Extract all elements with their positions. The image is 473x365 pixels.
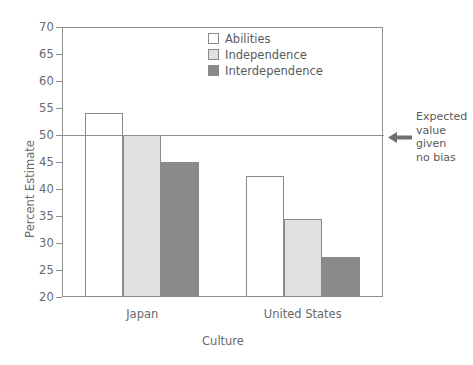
legend-label-interdependence: Interdependence [225, 64, 323, 78]
legend: Abilities Independence Interdependence [208, 31, 323, 79]
bar-united-states-interdependence [322, 257, 360, 298]
y-tick-label-50: 50 [39, 128, 54, 142]
legend-item-independence: Independence [208, 47, 323, 62]
bar-chart-figure: 7065605550454035302520 Percent Estimate … [0, 0, 473, 365]
annotation-line-4: no bias [416, 151, 473, 165]
bar-japan-independence [123, 135, 161, 297]
x-axis-title: Culture [0, 334, 446, 348]
legend-label-independence: Independence [225, 48, 307, 62]
bar-japan-abilities [85, 113, 123, 297]
y-tick-label-70: 70 [39, 20, 54, 34]
y-tick-label-40: 40 [39, 182, 54, 196]
legend-label-abilities: Abilities [225, 32, 271, 46]
legend-item-interdependence: Interdependence [208, 63, 323, 78]
bar-united-states-independence [284, 219, 322, 297]
expected-value-annotation: Expected value given no bias [416, 110, 473, 164]
annotation-line-2: value [416, 124, 473, 138]
annotation-line-1: Expected [416, 110, 473, 124]
reference-line-50 [62, 135, 384, 136]
y-tick-label-35: 35 [39, 209, 54, 223]
figure-caption [0, 354, 473, 365]
x-tick-label-japan: Japan [62, 307, 223, 321]
y-tick-label-20: 20 [39, 290, 54, 304]
y-tick-label-30: 30 [39, 236, 54, 250]
left-arrow-icon [388, 129, 412, 142]
legend-swatch-abilities [208, 33, 219, 44]
legend-swatch-interdependence [208, 65, 219, 76]
y-tick-label-25: 25 [39, 263, 54, 277]
y-tick-label-55: 55 [39, 101, 54, 115]
y-tick-mark-20 [56, 297, 62, 298]
y-tick-label-60: 60 [39, 74, 54, 88]
legend-item-abilities: Abilities [208, 31, 323, 46]
legend-swatch-independence [208, 49, 219, 60]
y-tick-label-65: 65 [39, 47, 54, 61]
bar-japan-interdependence [161, 162, 199, 297]
y-tick-label-45: 45 [39, 155, 54, 169]
y-axis-title: Percent Estimate [23, 119, 37, 259]
annotation-line-3: given [416, 137, 473, 151]
bar-united-states-abilities [246, 176, 284, 298]
x-tick-label-united-states: United States [223, 307, 384, 321]
